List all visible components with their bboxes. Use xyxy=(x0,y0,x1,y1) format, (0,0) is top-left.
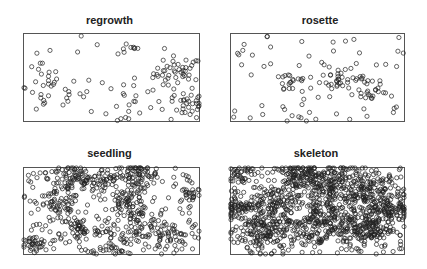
plot-rosette xyxy=(230,33,405,122)
panel-title: skeleton xyxy=(205,147,427,159)
panel-title: seedling xyxy=(6,147,213,159)
data-points xyxy=(229,166,406,256)
panel-title: regrowth xyxy=(6,14,213,26)
plot-skeleton xyxy=(230,167,405,255)
plot-frame xyxy=(231,34,405,122)
plot-regrowth xyxy=(23,33,200,122)
data-points xyxy=(22,34,201,123)
data-points xyxy=(232,34,406,123)
data-points xyxy=(22,166,201,256)
plot-seedling xyxy=(23,167,200,255)
panel-title: rosette xyxy=(213,14,427,26)
